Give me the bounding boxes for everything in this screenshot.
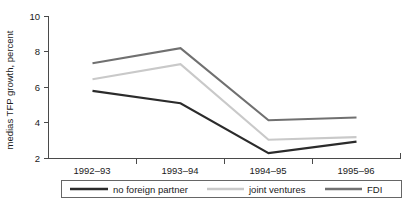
- x-cat-label-0: 1992–93: [74, 165, 111, 176]
- x-cat-label-3: 1995–96: [338, 165, 375, 176]
- legend-label-fdi: FDI: [367, 184, 382, 195]
- legend-label-joint-ventures: joint ventures: [248, 184, 306, 195]
- x-cat-label-2: 1994–95: [250, 165, 287, 176]
- legend-label-no-foreign-partner: no foreign partner: [113, 184, 188, 195]
- x-cat-label-1: 1993–94: [162, 165, 199, 176]
- y-tick-label-10: 10: [29, 11, 40, 22]
- y-tick-label-4: 4: [35, 117, 40, 128]
- chart-figure: medias TFP growth, percent 2 4 6 8 10: [0, 0, 412, 199]
- y-tick-label-6: 6: [35, 82, 40, 93]
- y-axis-title: medias TFP growth, percent: [4, 30, 15, 149]
- y-tick-label-2: 2: [35, 153, 40, 164]
- line-chart: medias TFP growth, percent 2 4 6 8 10: [0, 0, 412, 199]
- y-tick-label-8: 8: [35, 46, 40, 57]
